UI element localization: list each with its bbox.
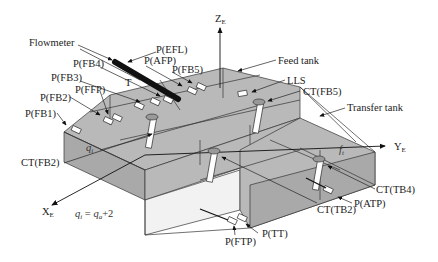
label-p-fb5: P(FB5)	[172, 64, 203, 76]
label-p-fb1: P(FB1)	[25, 108, 56, 120]
label-ct-tb4: CT(TB4)	[376, 184, 416, 196]
transfer-tank-label: Transfer tank	[347, 102, 404, 113]
label-ct-fb5: CT(FB5)	[303, 86, 342, 98]
label-p-fb3: P(FB3)	[51, 72, 82, 84]
label-p-tt: P(TT)	[262, 228, 288, 240]
lls-label: LLS	[287, 75, 306, 86]
label-p-atp: P(ATP)	[354, 198, 386, 210]
y-axis-label: YE	[394, 141, 406, 154]
feed-tank-label: Feed tank	[278, 55, 320, 66]
label-p-ftp: P(FTP)	[225, 236, 256, 248]
z-axis-label: ZE	[215, 13, 226, 26]
flowmeter-label: Flowmeter	[29, 37, 75, 48]
label-p-ffp: P(FFP)	[75, 84, 106, 96]
x-axis-label: XE	[42, 206, 54, 219]
label-p-fb4: P(FB4)	[73, 58, 104, 70]
equation: qi = qa+2	[75, 208, 113, 221]
label-p-fb2: P(FB2)	[40, 92, 71, 104]
label-ct-fb2: CT(FB2)	[21, 157, 60, 169]
label-ct-tb2: CT(TB2)	[317, 204, 357, 216]
tank-diagram: Flowmeter P(EFL) P(AFP) P(FB4) P(FB5) P(…	[0, 0, 438, 262]
label-t: T	[125, 77, 132, 88]
